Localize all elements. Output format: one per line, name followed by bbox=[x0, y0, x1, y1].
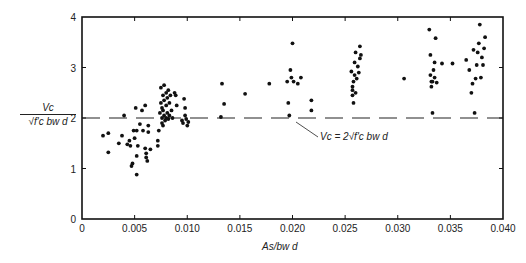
data-point bbox=[117, 141, 121, 145]
data-point bbox=[143, 146, 147, 150]
data-point bbox=[433, 61, 437, 65]
data-point bbox=[120, 134, 124, 138]
data-point bbox=[478, 23, 482, 27]
data-point bbox=[358, 57, 362, 61]
x-tick-label: 0.010 bbox=[175, 223, 200, 234]
data-point bbox=[471, 82, 475, 86]
data-point bbox=[358, 44, 362, 48]
data-point bbox=[146, 124, 150, 128]
data-point bbox=[174, 93, 178, 97]
x-axis-title: As/bw d bbox=[262, 241, 298, 252]
data-point bbox=[435, 81, 439, 85]
data-point bbox=[129, 144, 133, 148]
x-tick-label: 0 bbox=[79, 223, 85, 234]
data-point bbox=[182, 97, 186, 101]
annotation-leader-arrow bbox=[296, 122, 318, 137]
data-point bbox=[476, 51, 480, 55]
data-point bbox=[289, 68, 293, 72]
x-tick-label: 0.025 bbox=[333, 223, 358, 234]
data-point bbox=[479, 76, 483, 80]
data-point bbox=[169, 93, 173, 97]
data-point bbox=[477, 41, 481, 45]
data-point bbox=[219, 115, 223, 119]
data-point bbox=[350, 70, 354, 74]
data-point bbox=[186, 120, 190, 124]
data-point bbox=[475, 63, 479, 67]
data-point bbox=[165, 96, 169, 100]
data-point bbox=[353, 73, 357, 77]
data-point bbox=[433, 76, 437, 80]
data-point bbox=[357, 71, 361, 75]
data-point bbox=[161, 109, 165, 113]
data-point bbox=[220, 82, 224, 86]
data-point bbox=[161, 93, 165, 97]
data-point bbox=[286, 101, 290, 105]
data-point bbox=[473, 111, 477, 115]
data-point bbox=[354, 51, 358, 55]
data-point bbox=[140, 109, 144, 113]
data-point bbox=[351, 85, 355, 89]
x-tick-label: 0.030 bbox=[385, 223, 410, 234]
data-point bbox=[267, 82, 271, 86]
data-point bbox=[429, 73, 433, 77]
data-point bbox=[156, 139, 160, 143]
data-point bbox=[106, 131, 110, 135]
data-point bbox=[474, 77, 478, 81]
data-point bbox=[135, 173, 139, 177]
reference-line-annotation: Vc = 2√f'c bw d bbox=[320, 131, 388, 142]
data-point bbox=[467, 68, 471, 72]
data-point bbox=[122, 114, 126, 118]
data-point bbox=[296, 82, 300, 86]
data-point bbox=[432, 68, 436, 72]
data-point bbox=[310, 109, 314, 113]
data-point bbox=[434, 36, 438, 40]
axis-tick-labels: 00.0050.0100.0150.0200.0250.0300.0350.04… bbox=[70, 12, 516, 234]
data-point bbox=[470, 91, 474, 95]
data-point bbox=[290, 76, 294, 80]
data-point bbox=[222, 102, 226, 106]
data-point bbox=[451, 62, 455, 66]
data-point bbox=[133, 136, 137, 140]
data-point bbox=[354, 91, 358, 95]
data-point bbox=[183, 106, 187, 110]
data-point bbox=[136, 144, 140, 148]
data-point bbox=[144, 151, 148, 155]
data-point bbox=[164, 104, 168, 108]
data-point bbox=[162, 98, 166, 102]
data-point bbox=[170, 109, 174, 113]
y-tick-label: 4 bbox=[70, 12, 76, 23]
y-axis-title-numerator: Vc bbox=[20, 102, 76, 115]
data-point bbox=[159, 101, 163, 105]
scatter-chart: 00.0050.0100.0150.0200.0250.0300.0350.04… bbox=[0, 0, 526, 263]
data-point bbox=[171, 116, 175, 120]
data-point bbox=[166, 117, 170, 121]
data-point bbox=[430, 85, 434, 89]
data-point bbox=[168, 101, 172, 105]
data-points bbox=[101, 23, 487, 177]
data-point bbox=[285, 80, 289, 84]
data-point bbox=[149, 147, 153, 151]
x-tick-label: 0.015 bbox=[227, 223, 252, 234]
y-tick-label: 1 bbox=[70, 164, 76, 175]
data-point bbox=[144, 156, 148, 160]
data-point bbox=[135, 129, 139, 133]
data-point bbox=[480, 56, 484, 60]
data-point bbox=[143, 104, 147, 108]
y-axis-title-denominator: √f'c bw d bbox=[20, 115, 76, 127]
y-tick-label: 3 bbox=[70, 63, 76, 74]
data-point bbox=[287, 114, 291, 118]
data-point bbox=[472, 48, 476, 52]
y-tick-label: 0 bbox=[70, 214, 76, 225]
data-point bbox=[482, 46, 486, 50]
data-point bbox=[156, 144, 160, 148]
data-point bbox=[292, 80, 296, 84]
x-tick-label: 0.005 bbox=[122, 223, 147, 234]
x-tick-label: 0.040 bbox=[490, 223, 515, 234]
data-point bbox=[359, 53, 363, 57]
data-point bbox=[431, 111, 435, 115]
data-point bbox=[127, 139, 131, 143]
data-point bbox=[351, 88, 355, 92]
data-point bbox=[183, 114, 187, 118]
data-point bbox=[427, 28, 431, 32]
data-point bbox=[440, 62, 444, 66]
